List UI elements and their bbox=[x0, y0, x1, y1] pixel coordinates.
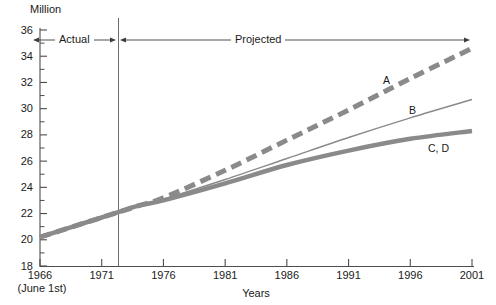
series-label-a: A bbox=[383, 75, 390, 86]
y-tick-label: 20 bbox=[11, 234, 33, 245]
x-tick-label: 1991 bbox=[326, 270, 372, 281]
x-tick-label: 1966 bbox=[17, 270, 63, 281]
x-tick-label: 1976 bbox=[140, 270, 186, 281]
y-tick-label: 26 bbox=[11, 156, 33, 167]
x-tick-label: 2001 bbox=[449, 270, 495, 281]
series-label-c-d: C, D bbox=[428, 143, 449, 154]
y-tick-label: 32 bbox=[11, 77, 33, 88]
y-tick-label: 34 bbox=[11, 51, 33, 62]
axis-group bbox=[40, 18, 474, 267]
chart-container: Million 36343230282624222018 19661971197… bbox=[0, 0, 496, 305]
x-tick-label: 1986 bbox=[264, 270, 310, 281]
x-tick-label: 1971 bbox=[79, 270, 125, 281]
region-label-actual: Actual bbox=[55, 34, 94, 45]
region-label-projected: Projected bbox=[231, 34, 285, 45]
y-tick-label: 30 bbox=[11, 103, 33, 114]
x-tick-label: 1996 bbox=[387, 270, 433, 281]
chart-canvas bbox=[0, 0, 496, 305]
y-axis-unit-label: Million bbox=[30, 4, 61, 15]
x-axis-date-note: (June 1st) bbox=[7, 283, 77, 294]
series-line-a bbox=[40, 48, 472, 237]
x-axis-title: Years bbox=[226, 288, 286, 299]
x-axis-ticks bbox=[40, 259, 472, 266]
y-tick-label: 22 bbox=[11, 208, 33, 219]
y-tick-label: 24 bbox=[11, 182, 33, 193]
y-tick-label: 36 bbox=[11, 25, 33, 36]
y-axis-ticks bbox=[40, 30, 47, 266]
series-line-b bbox=[40, 99, 472, 237]
x-tick-label: 1981 bbox=[202, 270, 248, 281]
series-label-b: B bbox=[409, 105, 416, 116]
y-tick-label: 28 bbox=[11, 129, 33, 140]
series-paths-group bbox=[40, 48, 472, 237]
series-line-c-d bbox=[40, 131, 472, 237]
